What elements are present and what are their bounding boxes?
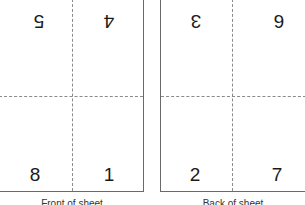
- page-number-top-right: 6: [264, 11, 294, 31]
- horizontal-fold-line: [161, 96, 305, 97]
- back-sheet-caption: Back of sheet: [163, 198, 303, 205]
- front-sheet-caption: Front of sheet: [2, 198, 142, 205]
- page-number-top-left: 3: [181, 11, 211, 31]
- page-number-top-left: 5: [24, 11, 54, 31]
- front-sheet: 5 4 8 1: [0, 0, 144, 192]
- page-number-top-right: 4: [94, 11, 124, 31]
- page-number-bottom-right: 1: [94, 165, 124, 185]
- page-number-bottom-left: 8: [20, 165, 50, 185]
- back-sheet: 3 6 2 7: [160, 0, 305, 192]
- page-number-bottom-left: 2: [180, 165, 210, 185]
- page-number-bottom-right: 7: [262, 165, 292, 185]
- horizontal-fold-line: [0, 96, 143, 97]
